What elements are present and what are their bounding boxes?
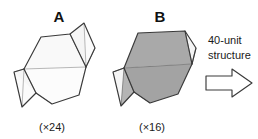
figure-root: A (×24) <box>0 0 258 139</box>
result-line-1: 40-unit <box>208 34 242 46</box>
unit-a-face-bottom-hex <box>24 67 86 104</box>
unit-b-group: B (×16) <box>113 8 196 133</box>
unit-b-count-label: (×16) <box>139 121 165 133</box>
result-group: 40-unit structure <box>206 34 252 97</box>
unit-b-face-bottom-hex <box>124 64 192 103</box>
unit-b-letter: B <box>155 8 166 25</box>
unit-b-faces <box>113 31 196 106</box>
assembly-diagram: A (×24) <box>0 0 258 139</box>
right-arrow-icon <box>206 69 252 97</box>
unit-a-letter: A <box>54 8 65 25</box>
result-line-2: structure <box>208 49 251 61</box>
unit-b-face-top-parallelogram <box>124 31 192 68</box>
unit-a-count-label: (×24) <box>39 121 65 133</box>
unit-a-group: A (×24) <box>14 8 95 133</box>
